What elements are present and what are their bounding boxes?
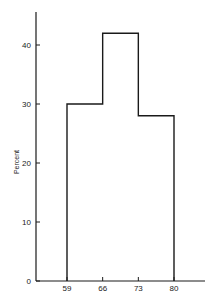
y-axis-ticks: 010203040 [22, 41, 40, 286]
y-tick-label: 30 [22, 100, 31, 109]
x-tick-label: 73 [134, 284, 143, 293]
x-axis-ticks: 59667380 [63, 277, 179, 293]
histogram-bars [67, 33, 174, 281]
x-tick-label: 66 [98, 284, 107, 293]
y-axis-title: Percent [13, 150, 20, 174]
x-tick-label: 80 [170, 284, 179, 293]
x-tick-label: 59 [63, 284, 72, 293]
y-tick-label: 10 [22, 218, 31, 227]
histogram-chart: 59667380 010203040 Percent [0, 0, 215, 304]
y-tick-label: 20 [22, 159, 31, 168]
y-tick-label: 40 [22, 41, 31, 50]
histogram-outline [67, 33, 174, 281]
y-tick-label: 0 [27, 277, 32, 286]
axes [36, 12, 205, 281]
